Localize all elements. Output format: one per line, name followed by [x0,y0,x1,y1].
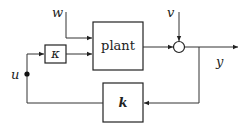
controller-to-u-wire [27,74,103,103]
plant-block: plant [93,22,143,70]
kappa-block: κ [45,45,66,63]
w-signal: w [52,5,92,38]
block-diagram: w plant κ v y k u [0,0,251,128]
feedback-wire [144,47,199,103]
w-label: w [52,5,63,20]
plant-label: plant [101,38,136,53]
kappa-label: κ [50,46,60,61]
u-to-kappa-wire [27,54,44,74]
controller-label: k [118,95,127,110]
y-label: y [215,54,224,69]
controller-block: k [103,83,143,122]
v-label: v [167,5,175,20]
summing-junction [174,42,185,53]
u-label: u [11,67,19,82]
u-branch-point [24,71,29,76]
v-signal: v [167,5,179,41]
w-wire [66,12,92,38]
